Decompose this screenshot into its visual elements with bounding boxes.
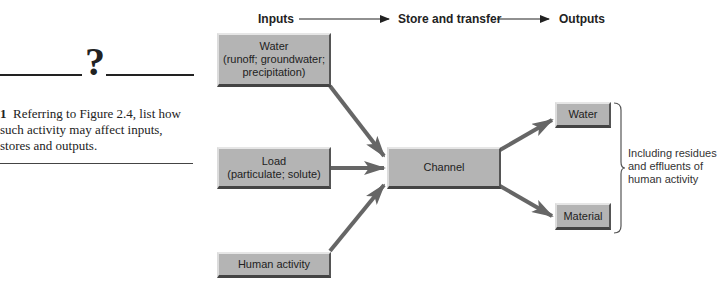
output-bracket: [614, 103, 625, 233]
input-box-load: Load (particulate; solute): [217, 147, 331, 189]
output-water-title: Water: [569, 108, 598, 121]
outputs-note: Including residues and effluents of huma…: [628, 147, 723, 186]
header-inputs: Inputs: [258, 12, 294, 26]
input-water-detail: (runoff; groundwater; precipitation): [219, 53, 329, 79]
diagram-arrows: [0, 0, 725, 284]
input-human-activity-title: Human activity: [238, 258, 310, 271]
input-load-title: Load: [227, 155, 321, 168]
arrow-water-to-channel: [330, 86, 384, 156]
store-channel-title: Channel: [424, 161, 465, 174]
store-box-channel: Channel: [387, 147, 501, 189]
output-box-water: Water: [555, 102, 611, 128]
arrow-channel-to-water: [500, 120, 552, 150]
output-material-title: Material: [563, 210, 602, 223]
header-outputs: Outputs: [559, 12, 605, 26]
arrow-channel-to-material: [500, 186, 552, 216]
input-load-detail: (particulate; solute): [227, 168, 321, 181]
output-box-material: Material: [555, 203, 611, 230]
input-box-human-activity: Human activity: [217, 252, 331, 278]
input-water-title: Water: [219, 40, 329, 53]
header-store-and-transfer: Store and transfer: [398, 12, 501, 26]
arrow-human-activity-to-channel: [330, 185, 384, 251]
input-box-water: Water (runoff; groundwater; precipitatio…: [217, 33, 331, 87]
